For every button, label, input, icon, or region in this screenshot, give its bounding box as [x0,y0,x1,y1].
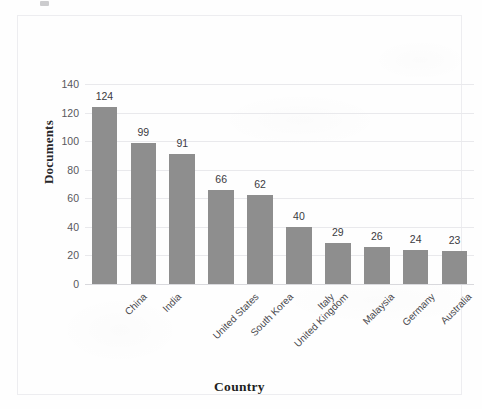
gridline [85,113,474,114]
bar [131,143,157,284]
bar [364,247,390,284]
bar-value-label: 66 [215,173,227,185]
bar-value-label: 124 [96,90,114,102]
y-axis-tick-label: 80 [67,164,79,176]
bar [442,251,468,284]
x-axis-category-label: Malaysia [360,291,396,327]
x-axis-title: Country [18,379,461,395]
bar-value-label: 24 [410,233,422,245]
bar-value-label: 40 [293,210,305,222]
y-axis-tick-label: 120 [61,107,79,119]
x-axis-category-label: Germany [400,291,437,328]
x-axis-category-label: Australia [438,291,473,326]
bar-value-label: 62 [254,178,266,190]
x-axis-baseline [85,284,474,285]
gridline [85,84,474,85]
bar-value-label: 26 [371,230,383,242]
y-axis-tick-label: 140 [61,78,79,90]
bar [247,195,273,284]
bar [403,250,429,284]
y-axis-tick-label: 40 [67,221,79,233]
scanned-page-background: Documents 020406080100120140 12499916662… [0,0,482,409]
bar [92,107,118,284]
y-axis-title: Documents [41,120,57,184]
bar-value-label: 91 [176,137,188,149]
y-axis-tick-label: 60 [67,192,79,204]
y-axis-tick-label: 100 [61,135,79,147]
plot-area: 020406080100120140 124999166624029262423… [85,84,474,284]
x-axis-category-label: India [161,291,184,314]
scan-artifact [40,1,49,6]
bar [286,227,312,284]
bar-value-label: 99 [138,126,150,138]
y-axis-tick-label: 20 [67,249,79,261]
bar-value-label: 29 [332,226,344,238]
y-axis-tick-label: 0 [73,278,79,290]
x-axis-category-label: China [123,291,149,317]
chart-frame: Documents 020406080100120140 12499916662… [17,15,462,395]
bar [169,154,195,284]
bar [208,190,234,284]
bar [325,243,351,284]
bar-value-label: 23 [449,234,461,246]
